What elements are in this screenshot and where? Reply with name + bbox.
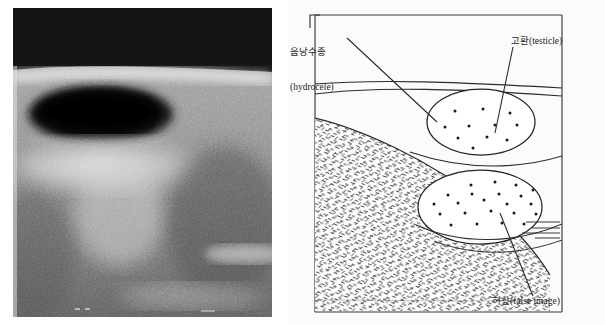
label-testicle: 고환(testicle): [511, 36, 562, 48]
upper-testicle-ellipse: [427, 89, 535, 155]
sonogram-canvas: [13, 8, 272, 317]
speckle-overlay-top: [13, 8, 272, 68]
caliper-mark-1: [75, 308, 80, 310]
label-false-image: 허상(false image): [492, 296, 560, 308]
label-hydrocele-korean: 음낭수종: [290, 47, 334, 59]
speckle-overlay-coarse: [13, 64, 272, 317]
caliper-mark-3: [201, 310, 215, 312]
figure-root: 음낭수종 (hydrocele) 고환(testicle) 허상(false i…: [0, 0, 605, 325]
ultrasound-photograph: [13, 8, 272, 317]
sonogram-content: [13, 8, 272, 317]
label-hydrocele: 음낭수종 (hydrocele): [290, 24, 334, 116]
caliper-mark-2: [85, 308, 90, 310]
label-hydrocele-english: (hydrocele): [290, 82, 334, 94]
schematic-diagram: [288, 0, 605, 325]
scan-left-edge: [13, 66, 17, 317]
diagram-canvas: [288, 0, 605, 325]
